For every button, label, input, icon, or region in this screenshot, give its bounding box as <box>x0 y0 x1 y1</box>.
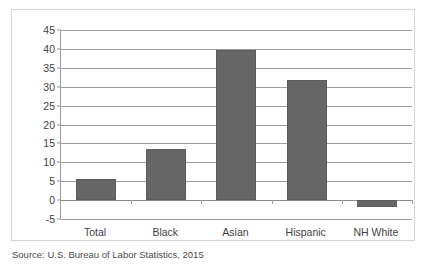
x-axis-category-labels: TotalBlackAsianHispanicNH White <box>60 225 412 243</box>
y-axis-tick-label: -5 <box>46 214 55 225</box>
source-note: Source: U.S. Bureau of Labor Statistics,… <box>12 249 204 261</box>
y-axis-tick-label: 30 <box>43 81 55 92</box>
y-axis-tick-label: 40 <box>43 44 55 55</box>
bar-slot <box>342 30 412 219</box>
chart-figure: 454035302520151050-5 TotalBlackAsianHisp… <box>0 0 430 267</box>
bar-slot <box>61 30 131 219</box>
bar <box>357 200 397 206</box>
y-axis-tick-label: 35 <box>43 63 55 74</box>
chart-frame: 454035302520151050-5 TotalBlackAsianHisp… <box>11 9 415 241</box>
gridline <box>61 219 412 220</box>
x-axis-category-label: Asian <box>200 225 270 239</box>
y-axis-tick-label: 25 <box>43 100 55 111</box>
y-axis-tick-label: 15 <box>43 138 55 149</box>
y-axis-tick-label: 20 <box>43 119 55 130</box>
x-axis-category-label: Total <box>60 225 130 239</box>
bar-slot <box>201 30 271 219</box>
x-axis-category-label: Hispanic <box>271 225 341 239</box>
bar <box>287 80 327 200</box>
y-axis-tick-label: 45 <box>43 25 55 36</box>
y-axis-tick-label: 0 <box>49 195 55 206</box>
bar-slot <box>272 30 342 219</box>
bar-series <box>61 30 412 219</box>
x-axis-category-label: NH White <box>341 225 411 239</box>
bar-slot <box>131 30 201 219</box>
bar <box>146 149 186 200</box>
x-axis-category-label: Black <box>130 225 200 239</box>
plot-area: 454035302520151050-5 <box>60 30 412 219</box>
y-axis-tick-label: 10 <box>43 157 55 168</box>
y-axis-tick-label: 5 <box>49 176 55 187</box>
x-axis-tick-mark <box>412 200 413 204</box>
bar <box>76 179 116 201</box>
bar <box>216 50 256 200</box>
